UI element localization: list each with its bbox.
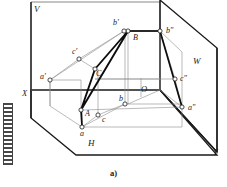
label-point-a-lower: a	[80, 129, 84, 138]
label-point-a-prime: a'	[40, 72, 46, 81]
label-point-C: C	[96, 69, 102, 78]
figure-page: V W H X Y O A B C a' b' c' a" b" c" a b …	[0, 0, 227, 187]
depth-rail-back	[82, 107, 182, 110]
plane-outlines	[31, 0, 217, 155]
marker-B	[126, 29, 130, 33]
label-point-c-lower: c	[102, 115, 106, 124]
label-point-c-dblprime: c"	[180, 74, 188, 83]
w-plane-outline	[160, 0, 217, 152]
label-point-c-prime: c'	[72, 47, 78, 56]
marker-c-prime	[77, 57, 81, 61]
label-point-B: B	[133, 33, 138, 42]
label-plane-W: W	[193, 56, 202, 66]
label-plane-H: H	[87, 138, 95, 148]
projection-diagram: V W H X Y O A B C a' b' c' a" b" c" a b …	[0, 0, 227, 187]
tie-cprime-C	[79, 59, 95, 69]
y-axis-line	[160, 90, 217, 152]
marker-b-lower	[123, 102, 127, 106]
label-point-b-lower: b	[119, 94, 123, 103]
marker-b-dblprime	[158, 29, 162, 33]
marker-b-prime	[122, 29, 126, 33]
marker-c-lower	[96, 113, 100, 117]
proj-bdbl-adbl	[160, 31, 182, 107]
tie-a-left	[50, 106, 82, 127]
label-point-b-dblprime: b"	[166, 26, 174, 35]
label-point-b-prime: b'	[113, 18, 119, 27]
label-origin-O: O	[141, 84, 147, 94]
label-point-a-dblprime: a"	[188, 103, 196, 112]
figure-caption: a)	[0, 168, 227, 178]
label-point-A: A	[84, 109, 90, 118]
proj-A-a	[81, 110, 82, 127]
marker-a-dblprime	[180, 105, 184, 109]
label-axis-X: X	[21, 88, 28, 98]
marker-c-dblprime	[173, 77, 177, 81]
label-plane-V: V	[34, 4, 41, 14]
marker-A	[79, 108, 83, 112]
marker-a-prime	[48, 78, 52, 82]
